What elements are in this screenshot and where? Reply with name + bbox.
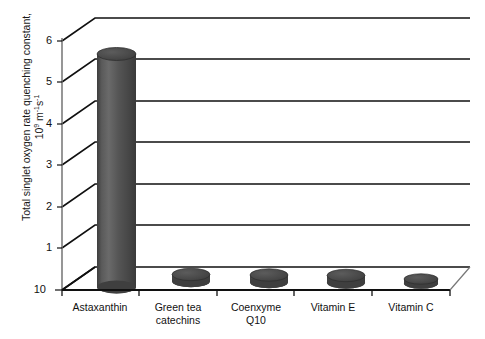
bar-top-astaxanthin [97, 48, 136, 61]
chart-plot-area [0, 0, 485, 339]
x-label-coenxyme-line2: Q10 [201, 314, 311, 327]
gridline-6 [62, 18, 470, 41]
y-tick-label-2: 2 [26, 200, 52, 212]
y-tick-label-6: 6 [26, 34, 52, 46]
floor-right-slant [450, 267, 470, 290]
chart-container: Total singlet oxygen rate quenching cons… [0, 0, 485, 339]
y-tick-label-4: 4 [26, 117, 52, 129]
bar-top-vitamin-e [327, 269, 365, 281]
x-label-vitamin-c-line1: Vitamin C [356, 301, 466, 314]
y-tick-label-1: 1 [26, 241, 52, 253]
y-tick-label-3: 3 [26, 158, 52, 170]
bar-top-coenxyme [250, 269, 288, 281]
x-label-vitamin-c: Vitamin C [356, 301, 466, 314]
bar-vitamin-c[interactable] [404, 274, 438, 289]
bar-coenxyme-q10[interactable] [250, 269, 288, 288]
y-tick-label-0: 10 [20, 283, 46, 295]
bar-astaxanthin[interactable] [97, 48, 136, 294]
bar-top-green-tea [172, 268, 210, 280]
floor-left-slant [62, 267, 95, 290]
bar-green-tea-catechins[interactable] [172, 268, 210, 287]
y-tick-label-5: 5 [26, 75, 52, 87]
bar-vitamin-e[interactable] [327, 269, 365, 288]
bar-top-vitamin-c [404, 274, 438, 284]
y-tick-marks [55, 41, 62, 290]
